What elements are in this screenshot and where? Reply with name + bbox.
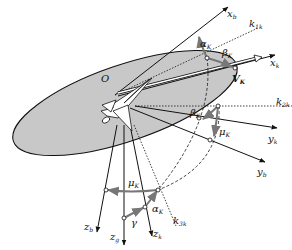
xb-label: xb xyxy=(227,8,237,20)
beta-top-label: βK xyxy=(221,47,233,59)
beta-mid-arc xyxy=(203,106,218,119)
alpha-top-label: αK xyxy=(200,38,212,50)
origin-label: O xyxy=(101,73,109,84)
mu-right-label: μK xyxy=(219,126,231,138)
zk-label: zk xyxy=(152,228,162,240)
mu-bottom-label: μK xyxy=(128,177,140,189)
mu-bottom-arc xyxy=(108,190,158,192)
xk-label: xk xyxy=(270,57,280,69)
velocity-label: VK xyxy=(232,73,246,85)
k3k-label: k3k xyxy=(173,215,187,227)
gamma-label: γ xyxy=(131,217,137,228)
zg-label: zg xyxy=(109,231,119,244)
yb-label: yb xyxy=(256,166,267,178)
zb-label: zb xyxy=(83,221,93,233)
velocity-arrowhead xyxy=(254,55,262,62)
alpha-bottom-label: αK xyxy=(152,203,164,215)
k1k-label: k1k xyxy=(249,18,263,30)
yk-label: yk xyxy=(267,133,278,145)
coordinate-frame-diagram: O xb k1k xk VK k2k yk yb zb zg zk k3k αK… xyxy=(0,0,292,250)
k2k-label: k2k xyxy=(276,96,290,108)
